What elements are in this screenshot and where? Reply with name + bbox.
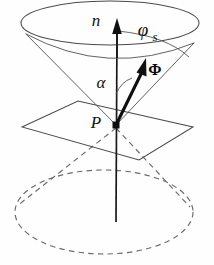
label-point-p: P (90, 113, 101, 132)
flux-vector-arrowhead (137, 58, 147, 77)
cone-rim-front-curve (26, 34, 194, 59)
label-flux-phi: Φ (148, 61, 161, 78)
label-phi-s-symbol: φ (138, 19, 149, 40)
cone-scattering-diagram: n α P φ s Φ (0, 0, 214, 265)
projection-line-right-dashed (116, 128, 190, 207)
tangent-plane (22, 101, 193, 160)
cone-rim-ellipse (21, 1, 199, 45)
label-normal-n: n (92, 11, 101, 30)
figure-root: n α P φ s Φ (0, 0, 214, 265)
projected-circle-dashed (15, 170, 193, 254)
label-alpha: α (97, 73, 107, 92)
flux-vector-shaft (116, 72, 142, 125)
alpha-arc (116, 78, 132, 94)
point-p-marker (113, 122, 120, 129)
label-phi-s-subscript: s (152, 29, 157, 44)
normal-vector-arrowhead (112, 18, 122, 34)
